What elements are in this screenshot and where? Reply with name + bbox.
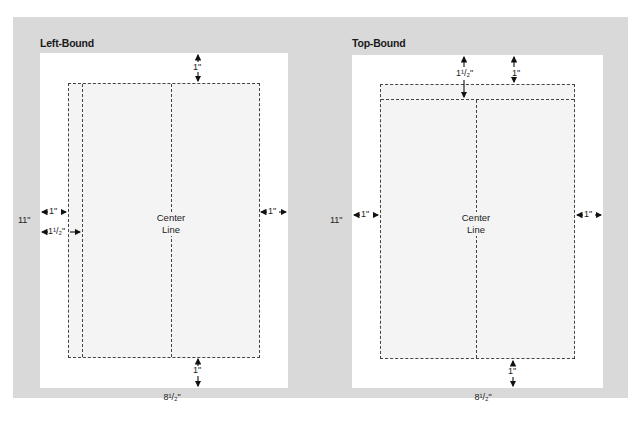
dimension-arrows-icon xyxy=(0,0,641,430)
